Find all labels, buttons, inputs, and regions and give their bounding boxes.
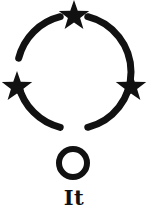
upper-left-arc [19, 86, 61, 128]
star-left-icon [2, 71, 32, 100]
symbol-figure: It [0, 0, 148, 218]
broken-circle-group [19, 17, 131, 128]
upper-right-arc [19, 17, 61, 59]
star-right-icon [116, 71, 146, 100]
star-top-icon [59, 0, 89, 29]
figure-caption: It [0, 186, 148, 210]
lower-open-circle [59, 149, 87, 177]
lower-arc [88, 17, 131, 128]
